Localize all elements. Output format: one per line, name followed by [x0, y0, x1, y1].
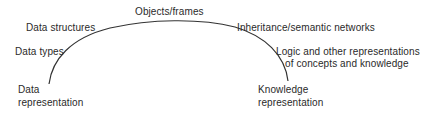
- label-data-structures: Data structures: [26, 22, 95, 34]
- label-logic-line2: of concepts and knowledge: [285, 58, 409, 70]
- label-knowledge-representation-line1: Knowledge: [258, 84, 308, 96]
- label-knowledge-representation-line2: representation: [258, 97, 323, 109]
- label-data-representation-line1: Data: [18, 84, 40, 96]
- label-data-types: Data types: [15, 46, 64, 58]
- label-inheritance-semantic-networks: Inheritance/semantic networks: [237, 22, 375, 34]
- label-objects-frames: Objects/frames: [135, 6, 204, 18]
- label-data-representation-line2: representation: [18, 97, 83, 109]
- label-logic-line1: Logic and other representations: [276, 46, 420, 58]
